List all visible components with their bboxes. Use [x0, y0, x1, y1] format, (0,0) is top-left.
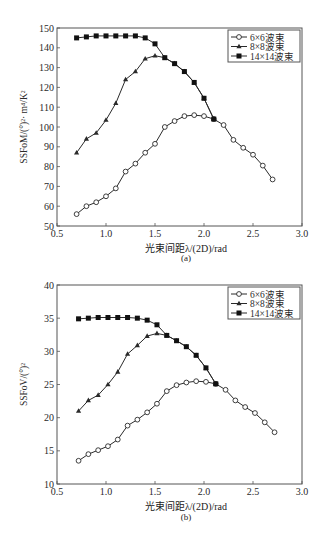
y-tick-label: 110 [39, 102, 54, 113]
y-axis-label: SSFoM/(°)²· m⁴/K² [19, 90, 30, 163]
open-circle-marker [182, 114, 187, 119]
square-marker [174, 338, 179, 343]
x-tick-label: 1.0 [100, 228, 113, 239]
chart-panel-a: 50607080901001101201301401500.51.01.52.0… [0, 0, 328, 272]
open-circle-marker [125, 423, 130, 428]
legend: 6×6波束8×8波束14×14波束 [228, 30, 300, 62]
series-line [77, 115, 273, 214]
legend-entry: 8×8波束 [250, 298, 285, 309]
y-tick-label: 140 [39, 42, 54, 53]
open-circle-marker [164, 389, 169, 394]
open-circle-marker [143, 150, 148, 155]
square-marker [192, 80, 197, 85]
open-circle-marker [115, 437, 120, 442]
x-tick-label: 2.0 [198, 228, 211, 239]
y-tick-label: 30 [44, 346, 54, 357]
open-circle-marker [241, 145, 246, 150]
open-circle-marker [133, 161, 138, 166]
open-circle-marker [221, 123, 226, 128]
series-line [79, 318, 216, 384]
open-circle-marker [96, 448, 101, 453]
open-circle-marker [106, 444, 111, 449]
square-marker [94, 33, 99, 38]
x-tick-label: 1.5 [149, 228, 162, 239]
open-circle-marker [145, 410, 150, 415]
chart-b-xlabel: 光束间距λ/(2D)/rad [22, 498, 328, 513]
y-tick-label: 90 [44, 141, 54, 152]
triangle-marker [103, 117, 108, 122]
square-marker [153, 41, 158, 46]
open-circle-marker [251, 152, 256, 157]
square-marker [194, 353, 199, 358]
square-marker [164, 333, 169, 338]
open-circle-marker [231, 137, 236, 142]
open-circle-marker [104, 194, 109, 199]
open-circle-marker [84, 204, 89, 209]
triangle-marker [115, 369, 120, 374]
square-marker [105, 315, 110, 320]
series-line [79, 333, 216, 411]
open-circle-marker [155, 401, 160, 406]
open-circle-marker [123, 169, 128, 174]
open-circle-marker [202, 114, 207, 119]
square-marker [104, 33, 109, 38]
legend-entry: 14×14波束 [250, 308, 294, 319]
legend-entry: 8×8波束 [250, 41, 285, 52]
square-marker [182, 69, 187, 74]
square-marker [143, 35, 148, 40]
open-circle-marker [272, 430, 277, 435]
square-marker [184, 344, 189, 349]
x-tick-label: 0.5 [51, 228, 64, 239]
triangle-marker [152, 53, 157, 58]
x-tick-label: 1.5 [149, 486, 162, 497]
y-tick-label: 40 [44, 280, 54, 291]
square-marker [135, 316, 140, 321]
triangle-marker [154, 331, 159, 336]
open-circle-marker [76, 458, 81, 463]
open-circle-marker [233, 398, 238, 403]
square-marker [74, 35, 79, 40]
square-marker [113, 33, 118, 38]
square-marker [203, 365, 208, 370]
y-tick-label: 20 [44, 412, 54, 423]
x-tick-label: 3.0 [296, 228, 309, 239]
square-marker [154, 322, 159, 327]
legend-entry: 6×6波束 [250, 32, 285, 43]
square-marker [237, 54, 242, 59]
chart-b-caption: (b) [22, 512, 328, 522]
square-marker [86, 316, 91, 321]
legend: 6×6波束8×8波束14×14波束 [228, 287, 300, 319]
y-tick-label: 25 [44, 379, 54, 390]
y-tick-label: 130 [39, 62, 54, 73]
y-tick-label: 150 [39, 23, 54, 34]
square-marker [237, 311, 242, 316]
open-circle-marker [253, 411, 258, 416]
x-tick-label: 2.5 [247, 486, 260, 497]
y-tick-label: 100 [39, 122, 54, 133]
x-tick-label: 2.5 [247, 228, 260, 239]
y-tick-label: 60 [44, 201, 54, 212]
series-line [77, 56, 214, 153]
square-marker [115, 315, 120, 320]
square-marker [162, 55, 167, 60]
legend-entry: 14×14波束 [250, 51, 294, 62]
open-circle-marker [223, 387, 228, 392]
square-marker [202, 96, 207, 101]
y-axis-label: SSFoV/(°)² [19, 363, 30, 406]
square-marker [213, 381, 218, 386]
open-circle-marker [162, 125, 167, 130]
open-circle-marker [113, 186, 118, 191]
open-circle-marker [237, 292, 242, 297]
open-circle-marker [237, 35, 242, 40]
open-circle-marker [194, 379, 199, 384]
y-tick-label: 120 [39, 82, 54, 93]
open-circle-marker [172, 119, 177, 124]
square-marker [76, 316, 81, 321]
open-circle-marker [262, 420, 267, 425]
square-marker [133, 33, 138, 38]
open-circle-marker [94, 200, 99, 205]
open-circle-marker [86, 452, 91, 457]
y-tick-label: 80 [44, 161, 54, 172]
triangle-marker [84, 136, 89, 141]
open-circle-marker [184, 380, 189, 385]
